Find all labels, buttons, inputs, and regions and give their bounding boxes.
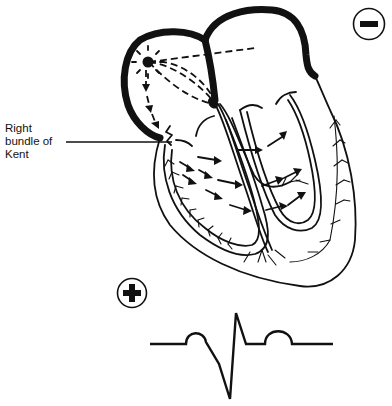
sa-node	[132, 46, 164, 78]
heart-conduction-diagram	[0, 0, 392, 406]
right-bundle-of-kent-label: Right bundle of Kent	[5, 122, 52, 161]
tricuspid-valve	[176, 140, 192, 146]
ventricular-arrows	[180, 131, 306, 215]
ecg-trace	[150, 313, 333, 399]
valve-flap-2	[240, 105, 262, 110]
left-atrium-wall	[205, 10, 315, 76]
atrial-arrows	[142, 70, 159, 129]
interatrial-septum	[205, 40, 215, 100]
positive-electrode-icon	[118, 279, 147, 308]
valve-flap	[196, 116, 214, 136]
right-ventricle-inner-wall	[171, 120, 259, 246]
right-atrium-wall	[124, 32, 205, 138]
atria-walls	[124, 10, 315, 138]
internodal-pathways	[149, 48, 255, 104]
negative-electrode-icon	[354, 9, 385, 40]
